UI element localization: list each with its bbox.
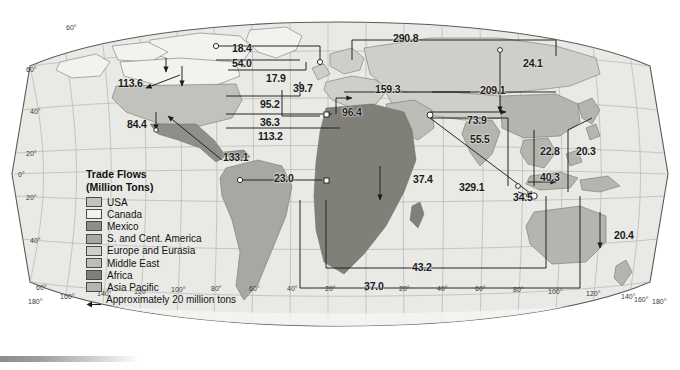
lat-left-20b: 20°: [26, 194, 37, 201]
flow-value-label: 39.7: [293, 83, 313, 94]
legend-swatch-icon: [86, 282, 102, 292]
lat-top-60: 60°: [66, 24, 77, 31]
lon-160-r: 160°: [634, 296, 649, 303]
legend-item: S. and Cent. America: [86, 233, 238, 245]
lon-20-l: 20°: [325, 285, 336, 292]
legend-item: Canada: [86, 208, 238, 220]
flow-value-label: 209.1: [480, 85, 505, 96]
legend-item-label: USA: [107, 197, 128, 208]
footer-gradient-bar: [0, 356, 140, 362]
flow-value-label: 84.4: [127, 119, 147, 130]
flow-value-label: 22.8: [540, 146, 560, 157]
legend-item: Africa: [86, 269, 238, 281]
flow-value-label: 40.3: [540, 172, 560, 183]
flow-value-label: 17.9: [266, 73, 286, 84]
lat-left-60b: 60°: [36, 284, 47, 291]
legend-item: Mexico: [86, 220, 238, 232]
legend-item: Middle East: [86, 257, 238, 269]
lat-left-0: 0°: [18, 171, 25, 178]
lat-left-60: 60°: [26, 66, 37, 73]
flow-value-label: 37.4: [413, 174, 433, 185]
legend-swatch-icon: [86, 258, 102, 268]
flow-value-label: 73.9: [467, 115, 487, 126]
flow-value-label: 23.0: [274, 173, 294, 184]
legend-title-line2: (Million Tons): [86, 181, 238, 194]
legend-item-label: Asia Pacific: [107, 282, 159, 293]
legend-item-label: Canada: [107, 209, 142, 220]
figure-canvas: 60° 60° 40° 20° 0° 20° 40° 60° 180° 160°…: [0, 0, 680, 370]
lat-left-40b: 40°: [30, 237, 41, 244]
flow-value-label: 159.3: [375, 84, 400, 95]
flow-value-label: 113.6: [118, 78, 143, 89]
legend-swatch-icon: [86, 234, 102, 244]
lat-left-20: 20°: [26, 150, 37, 157]
legend-item-label: Mexico: [107, 221, 139, 232]
legend-title-line1: Trade Flows: [86, 168, 238, 181]
legend-swatch-icon: [86, 209, 102, 219]
flow-value-label: 329.1: [459, 182, 484, 193]
legend-item: Europe and Eurasia: [86, 245, 238, 257]
legend-scale-row: Approximately 20 million tons: [86, 294, 238, 307]
legend-item-label: Africa: [107, 270, 133, 281]
legend-item: USA: [86, 196, 238, 208]
lon-120-r: 120°: [586, 290, 601, 297]
lon-80-r: 80°: [513, 286, 524, 293]
flow-value-label: 96.4: [342, 107, 362, 118]
map-legend: Trade Flows (Million Tons) USACanadaMexi…: [86, 168, 238, 306]
lon-60-l: 60°: [249, 285, 260, 292]
lon-180-l: 180°: [28, 298, 43, 305]
flow-value-label: 20.3: [576, 146, 596, 157]
legend-swatch-icon: [86, 270, 102, 280]
flow-value-label: 55.5: [470, 134, 490, 145]
legend-scale-note: Approximately 20 million tons: [106, 294, 236, 305]
flow-value-label: 37.0: [364, 281, 384, 292]
flow-value-label: 113.2: [258, 131, 283, 142]
lon-40-l: 40°: [287, 285, 298, 292]
legend-swatch-icon: [86, 197, 102, 207]
lon-100-r: 100°: [548, 288, 563, 295]
left-arrow-icon: [86, 295, 102, 304]
flow-value-label: 34.5: [513, 192, 533, 203]
lon-40-r: 40°: [437, 285, 448, 292]
flow-value-label: 18.4: [232, 43, 252, 54]
flow-value-label: 133.1: [223, 152, 248, 163]
flow-value-label: 290.8: [393, 33, 418, 44]
legend-item-label: S. and Cent. America: [107, 233, 202, 244]
lon-60-r: 60°: [475, 285, 486, 292]
legend-item-label: Middle East: [107, 258, 159, 269]
lon-20-r: 20°: [399, 285, 410, 292]
flow-value-label: 43.2: [412, 262, 432, 273]
flow-value-label: 36.3: [260, 117, 280, 128]
lon-160-l: 160°: [60, 293, 75, 300]
flow-value-label: 95.2: [260, 99, 280, 110]
lon-180-r: 180°: [652, 298, 667, 305]
flow-value-label: 24.1: [523, 58, 543, 69]
lat-left-40: 40°: [30, 108, 41, 115]
flow-value-label: 54.0: [232, 58, 252, 69]
legend-item: Asia Pacific: [86, 281, 238, 293]
legend-swatch-icon: [86, 221, 102, 231]
flow-value-label: 20.4: [614, 230, 634, 241]
legend-items: USACanadaMexicoS. and Cent. AmericaEurop…: [86, 196, 238, 294]
legend-item-label: Europe and Eurasia: [107, 245, 195, 256]
legend-swatch-icon: [86, 246, 102, 256]
